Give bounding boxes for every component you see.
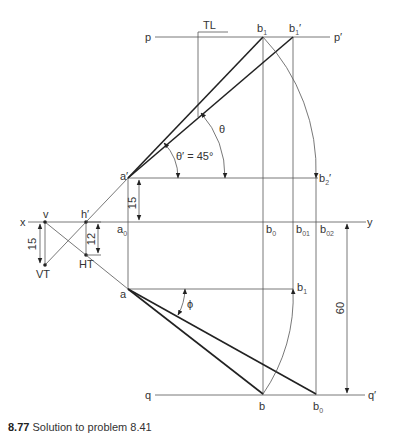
label-q: q <box>145 389 151 401</box>
label-y: y <box>367 216 373 228</box>
label-a: a <box>120 288 127 300</box>
label-phi: ϕ <box>187 298 193 310</box>
label-theta: θ <box>219 123 225 135</box>
label-b0: b0 <box>266 223 276 237</box>
figure-caption-text: Solution to problem 8.41 <box>32 421 151 433</box>
label-tl: TL <box>203 19 216 31</box>
label-b2-prime: b2′ <box>319 172 331 186</box>
label-h-prime: h′ <box>81 208 89 220</box>
rotation-arcs <box>263 37 316 394</box>
angle-markers: θ θ′ = 45° ϕ <box>164 113 225 315</box>
label-b: b <box>259 400 265 412</box>
label-p-prime: p′ <box>334 31 342 43</box>
dim-60-b: 60 <box>334 302 346 314</box>
label-a-prime: a′ <box>120 170 128 182</box>
trace-construction: v h′ VT HT <box>36 178 128 289</box>
locus-line-p: p p′ <box>145 31 342 43</box>
dim-15-a-prime: 15 <box>126 197 138 209</box>
label-b1-prime: b1′ <box>289 22 301 36</box>
top-view-lines <box>128 289 316 394</box>
label-v: v <box>43 208 49 220</box>
figure-number: 8.77 <box>8 421 29 433</box>
label-x: x <box>20 216 26 228</box>
label-b1-top: b1 <box>257 22 267 36</box>
label-b1-low: b1 <box>297 281 307 295</box>
label-ht: HT <box>79 258 94 270</box>
point-labels: a′ a a0 b1 b1′ b2′ b0 b01 b02 b1 b b0 <box>117 22 334 414</box>
label-b0-bottom: b0 <box>313 400 323 414</box>
figure-caption: 8.77 Solution to problem 8.41 <box>8 421 152 433</box>
label-b01: b01 <box>296 223 310 237</box>
dim-12-ht: 12 <box>85 233 97 245</box>
label-p: p <box>145 31 151 43</box>
dim-15-vt: 15 <box>26 238 38 250</box>
label-b02: b02 <box>320 223 334 237</box>
label-vt: VT <box>36 268 50 280</box>
label-a0: a0 <box>117 223 127 237</box>
label-theta-prime: θ′ = 45° <box>176 150 213 162</box>
label-q-prime: q′ <box>368 389 376 401</box>
true-length-marker: TL <box>198 19 228 117</box>
